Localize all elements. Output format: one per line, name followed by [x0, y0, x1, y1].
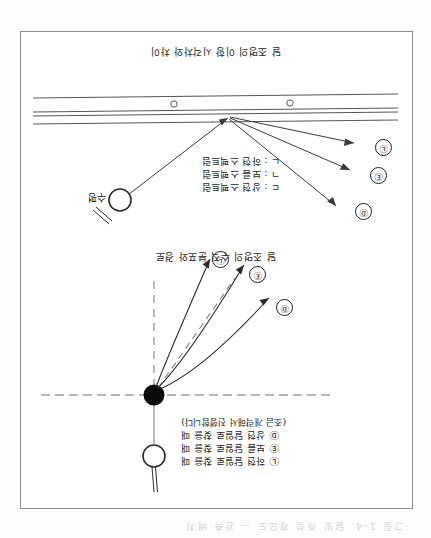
reflected-ray-b-arrowhead — [344, 139, 354, 146]
legend-line-3: Ⓓ 상현 달일로 찾을 때 — [181, 428, 346, 441]
surface-line-third — [33, 108, 398, 112]
ray-label-a: Ⓔ — [370, 167, 387, 184]
ray-label-a: Ⓔ — [249, 266, 266, 283]
figure-top-legend: Ⓛ 하현 달일로 찾을 때 Ⓔ 보름 달일로 찾을 때 Ⓓ 상현 달일로 찾을 … — [181, 415, 346, 468]
figure-bottom-drawing — [19, 32, 412, 246]
figure-top-drawing — [19, 246, 412, 508]
moon-open-circle — [109, 189, 131, 211]
figure-bottom-caption: 달 조명의 이항 시각차와 차이 — [19, 45, 412, 60]
moon-stem-line-b — [152, 467, 154, 492]
figure-top: Ⓛ 하현 달일로 찾을 때 Ⓔ 보름 달일로 찾을 때 Ⓓ 상현 달일로 찾을 … — [19, 246, 412, 508]
legend-line-1: Ⓛ 하현 달일로 찾을 때 — [181, 455, 346, 468]
ray-c-arrowhead — [260, 298, 270, 306]
legend-line-2: ㄱ : 보름 스펙트럼 — [170, 168, 280, 181]
surface-line-second — [33, 112, 398, 116]
figure-bottom: ㄷ : 상현 스펙트럼 ㄱ : 보름 스펙트럼 ㄴ : 하현 스펙트럼 Ⓓ Ⓔ … — [19, 32, 412, 246]
surface-line-bottom — [33, 94, 398, 98]
legend-line-2: Ⓔ 보름 달일로 찾을 때 — [181, 442, 346, 455]
moon-stem-line-a — [156, 467, 158, 492]
surface-inclusion-1 — [287, 100, 293, 106]
ray-b-path — [156, 259, 210, 387]
reflected-ray-c-arrowhead — [327, 197, 336, 206]
ray-label-c: Ⓓ — [355, 203, 372, 220]
figure-top-caption: 달 조명의 수직 분포와 경로 — [19, 250, 412, 265]
surface-inclusion-2 — [171, 101, 177, 107]
ray-label-b: Ⓛ — [375, 139, 392, 156]
scanned-page: 그림 1-4. 달빛 측정 개요도 — 관측 배치 — [0, 0, 431, 538]
ray-label-c: Ⓓ — [276, 299, 293, 316]
moon-label: 수평 — [87, 191, 106, 206]
figure-frame: Ⓛ 하현 달일로 찾을 때 Ⓔ 보름 달일로 찾을 때 Ⓓ 상현 달일로 찾을 … — [20, 31, 413, 509]
figure-bottom-legend: ㄷ : 상현 스펙트럼 ㄱ : 보름 스펙트럼 ㄴ : 하현 스펙트럼 — [170, 154, 280, 194]
legend-line-4-note: (조금 개략해서 진행합니다) — [181, 415, 346, 428]
cut-off-header-text: 그림 1-4. 달빛 측정 개요도 — 관측 배치 — [153, 521, 403, 534]
observation-point-dot — [144, 385, 165, 406]
legend-line-3: ㄴ : 하현 스펙트럼 — [170, 154, 280, 167]
moon-stem-line-a — [96, 207, 112, 221]
moon-open-circle — [143, 445, 165, 467]
ray-a-arrowhead — [236, 265, 244, 274]
mid-ray-dashed-line — [158, 278, 235, 388]
surface-line-top — [33, 120, 398, 124]
moon-stem-line-b — [93, 210, 109, 224]
legend-line-1: ㄷ : 상현 스펙트럼 — [170, 181, 280, 194]
